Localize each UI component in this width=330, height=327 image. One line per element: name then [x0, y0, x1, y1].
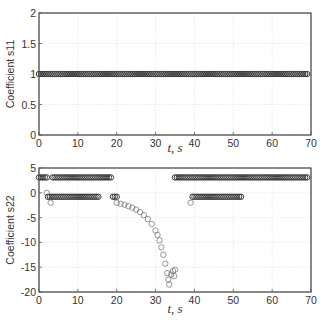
- bottom-x-axis-label: t, s: [167, 301, 182, 316]
- x-tick-label: 70: [305, 294, 317, 306]
- x-tick-label: 0: [36, 137, 42, 149]
- y-tick-label: -15: [21, 261, 36, 273]
- y-tick-label: 0.5: [21, 99, 36, 111]
- plot-s22: 010203040506070-20-15-10-505: [21, 162, 317, 306]
- top-y-axis-label: Coefficient s11: [4, 40, 16, 109]
- x-tick-label: 70: [305, 137, 317, 149]
- x-tick-label: 40: [189, 294, 201, 306]
- x-tick-label: 50: [227, 137, 239, 149]
- y-tick-label: 0: [30, 129, 36, 141]
- x-tick-label: 60: [266, 137, 278, 149]
- x-tick-label: 0: [36, 294, 42, 306]
- x-tick-label: 10: [72, 137, 84, 149]
- y-tick-label: 2: [30, 7, 36, 19]
- x-tick-label: 30: [150, 137, 162, 149]
- y-tick-label: 1.5: [21, 38, 36, 50]
- x-tick-label: 30: [150, 294, 162, 306]
- x-tick-label: 20: [111, 294, 123, 306]
- bottom-y-axis-label: Coefficient s22: [4, 195, 16, 264]
- x-tick-label: 20: [111, 137, 123, 149]
- x-tick-label: 40: [189, 137, 201, 149]
- y-tick-label: 0: [30, 187, 36, 199]
- y-tick-label: -20: [21, 286, 36, 298]
- x-tick-label: 10: [72, 294, 84, 306]
- y-tick-label: -10: [21, 236, 36, 248]
- x-tick-label: 60: [266, 294, 278, 306]
- plot-s11: 01020304050607000.511.52: [21, 7, 317, 149]
- y-tick-label: -5: [27, 212, 36, 224]
- top-x-axis-label: t, s: [167, 140, 182, 155]
- y-tick-label: 5: [30, 162, 36, 174]
- figure: 01020304050607000.511.52 010203040506070…: [0, 0, 330, 327]
- y-tick-label: 1: [30, 68, 36, 80]
- x-tick-label: 50: [227, 294, 239, 306]
